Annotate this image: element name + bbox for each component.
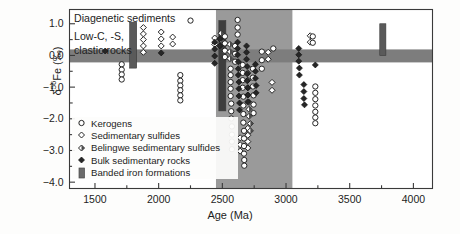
annotation-lowc-line2: clastic rocks: [74, 44, 132, 56]
x-tick-label: 4000: [402, 193, 426, 205]
x-tick-label: 3000: [274, 193, 298, 205]
legend-item-label: Banded iron formations: [89, 167, 190, 178]
y-tick-label: −1.0: [43, 81, 64, 93]
x-tick-label: 2000: [147, 193, 171, 205]
legend-marker-open-diamond-icon: [75, 129, 89, 141]
legend-marker-filled-diamond-icon: [75, 154, 89, 166]
x-tick-label: 2500: [211, 193, 235, 205]
legend: KerogensSedimentary sulfidesBelingwe sed…: [72, 117, 238, 179]
x-axis-title-text: Age (Ma): [207, 209, 252, 221]
y-tick-label: −3.0: [43, 144, 64, 156]
legend-item-label: Bulk sedimentary rocks: [89, 155, 190, 166]
y-tick-label: −4.0: [43, 176, 64, 188]
legend-item: Sedimentary sulfides: [72, 129, 238, 141]
y-tick-label: −2.0: [43, 112, 64, 124]
y-tick-label: 0.0: [49, 49, 64, 61]
legend-item: Banded iron formations: [72, 167, 238, 179]
x-axis-title: Age (Ma): [0, 209, 460, 221]
x-tick-label: 3500: [338, 193, 362, 205]
annotation-diagenetic-sediments: Diagenetic sediments: [74, 12, 175, 24]
legend-marker-half-filled-diamond-icon: [75, 142, 89, 154]
legend-marker-gray-bar-icon: [75, 167, 89, 179]
legend-item-label: Kerogens: [89, 118, 132, 129]
legend-item-label: Sedimentary sulfides: [89, 130, 180, 141]
figure-panel: 1500200025003000350040001.00.0−1.0−2.0−3…: [0, 0, 460, 234]
legend-marker-open-circle-icon: [75, 117, 89, 129]
y-tick-label: 1.0: [49, 17, 64, 29]
legend-item-label: Belingwe sedimentary sulfides: [89, 142, 220, 153]
legend-item: Bulk sedimentary rocks: [72, 154, 238, 166]
legend-item: Kerogens: [72, 117, 238, 129]
annotation-lowc-line1: Low-C, -S,: [74, 30, 124, 42]
legend-item: Belingwe sedimentary sulfides: [72, 142, 238, 154]
x-tick-label: 1500: [83, 193, 107, 205]
bif-bar-bif-3750: [380, 24, 386, 56]
